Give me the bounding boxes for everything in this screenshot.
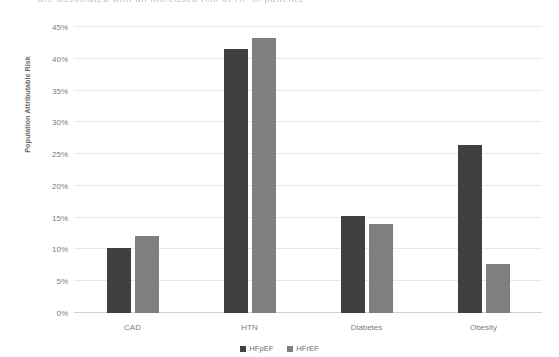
bar-hfref-diabetes[interactable] (369, 224, 393, 313)
bar-hfpef-obesity[interactable] (458, 145, 482, 313)
chart-page: are associated with an increased risk of… (0, 0, 559, 357)
y-axis-tick-label: 40% (52, 54, 68, 63)
bar-hfref-cad[interactable] (135, 236, 159, 313)
chart-legend: HFpEFHFrEF (0, 344, 559, 353)
plot-area: 0%5%10%15%20%25%30%35%40%45%CADHTNDiabet… (74, 27, 542, 313)
legend-label: HFpEF (249, 344, 273, 353)
legend-swatch-icon (240, 346, 246, 352)
y-axis-tick-label: 0% (56, 309, 68, 318)
bar-hfpef-diabetes[interactable] (341, 216, 365, 313)
x-axis-category-label: HTN (191, 323, 308, 332)
x-axis-category-label: CAD (74, 323, 191, 332)
y-axis-tick-label: 35% (52, 86, 68, 95)
bar-hfref-obesity[interactable] (486, 264, 510, 313)
y-axis-title: Population Attributable Risk (23, 45, 32, 165)
bar-group: CAD (74, 27, 191, 313)
x-axis-category-label: Obesity (425, 323, 542, 332)
bar-group: HTN (191, 27, 308, 313)
bar-group: Diabetes (308, 27, 425, 313)
y-axis-tick-label: 25% (52, 150, 68, 159)
clipped-body-text: are associated with an increased risk of… (38, 0, 498, 4)
bar-hfref-htn[interactable] (252, 38, 276, 313)
legend-label: HFrEF (296, 344, 318, 353)
y-axis-tick-label: 5% (56, 277, 68, 286)
y-axis-tick-label: 30% (52, 118, 68, 127)
x-axis-category-label: Diabetes (308, 323, 425, 332)
bar-hfpef-htn[interactable] (224, 49, 248, 313)
y-axis-tick-label: 45% (52, 23, 68, 32)
bar-hfpef-cad[interactable] (107, 248, 131, 313)
bar-group: Obesity (425, 27, 542, 313)
legend-item-hfref[interactable]: HFrEF (287, 344, 318, 353)
legend-swatch-icon (287, 346, 293, 352)
y-axis-tick-label: 10% (52, 245, 68, 254)
y-axis-tick-label: 20% (52, 181, 68, 190)
legend-item-hfpef[interactable]: HFpEF (240, 344, 273, 353)
y-axis-tick-label: 15% (52, 213, 68, 222)
